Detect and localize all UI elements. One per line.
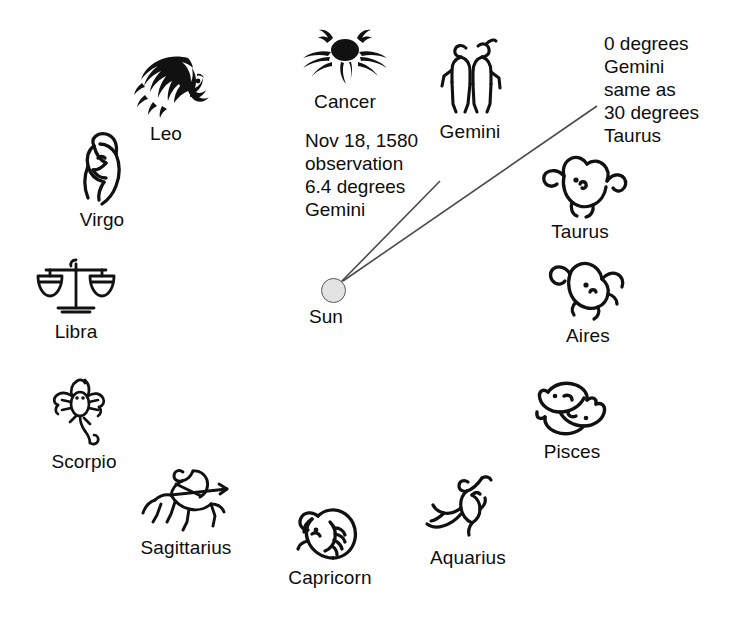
two-fish-icon: [524, 368, 620, 440]
zodiac-label-virgo: Virgo: [80, 209, 125, 231]
zodiac-sign-aires: Aires: [528, 252, 648, 347]
zodiac-sign-taurus: Taurus: [520, 148, 640, 243]
bull-head-icon: [532, 148, 628, 220]
zodiac-label-aires: Aires: [566, 325, 610, 347]
zodiac-sign-virgo: Virgo: [42, 128, 162, 231]
scales-icon: [28, 250, 124, 320]
sun-label: Sun: [309, 306, 343, 328]
zodiac-label-libra: Libra: [55, 321, 98, 343]
observation-annotation: Nov 18, 1580 observation 6.4 degrees Gem…: [305, 129, 418, 221]
water-bearer-icon: [420, 468, 516, 546]
zodiac-diagram: Sun Nov 18, 1580 observation 6.4 degrees…: [0, 0, 735, 620]
twins-icon: [422, 32, 518, 120]
zodiac-label-pisces: Pisces: [544, 441, 601, 463]
zodiac-label-scorpio: Scorpio: [51, 451, 116, 473]
zodiac-label-capricorn: Capricorn: [288, 567, 371, 589]
zodiac-sign-scorpio: Scorpio: [24, 370, 144, 473]
zodiac-sign-gemini: Gemini: [410, 32, 530, 143]
zodiac-sign-aquarius: Aquarius: [408, 468, 528, 569]
ram-head-icon: [540, 252, 636, 324]
zodiac-label-gemini: Gemini: [440, 121, 501, 143]
goat-head-icon: [282, 500, 378, 566]
zodiac-sign-sagittarius: Sagittarius: [126, 460, 246, 559]
zodiac-sign-libra: Libra: [16, 250, 136, 343]
lion-head-icon: [118, 50, 214, 122]
crab-icon: [297, 22, 393, 90]
maiden-icon: [54, 128, 150, 208]
zodiac-sign-pisces: Pisces: [512, 368, 632, 463]
scorpion-icon: [36, 370, 132, 450]
zodiac-label-taurus: Taurus: [551, 221, 609, 243]
zodiac-label-sagittarius: Sagittarius: [141, 537, 232, 559]
zodiac-sign-cancer: Cancer: [285, 22, 405, 113]
zodiac-sign-capricorn: Capricorn: [270, 500, 390, 589]
sun-circle: [321, 278, 346, 303]
boundary-annotation: 0 degrees Gemini same as 30 degrees Taur…: [604, 32, 699, 147]
archer-centaur-icon: [131, 460, 241, 536]
zodiac-label-cancer: Cancer: [314, 91, 376, 113]
zodiac-label-aquarius: Aquarius: [430, 547, 506, 569]
